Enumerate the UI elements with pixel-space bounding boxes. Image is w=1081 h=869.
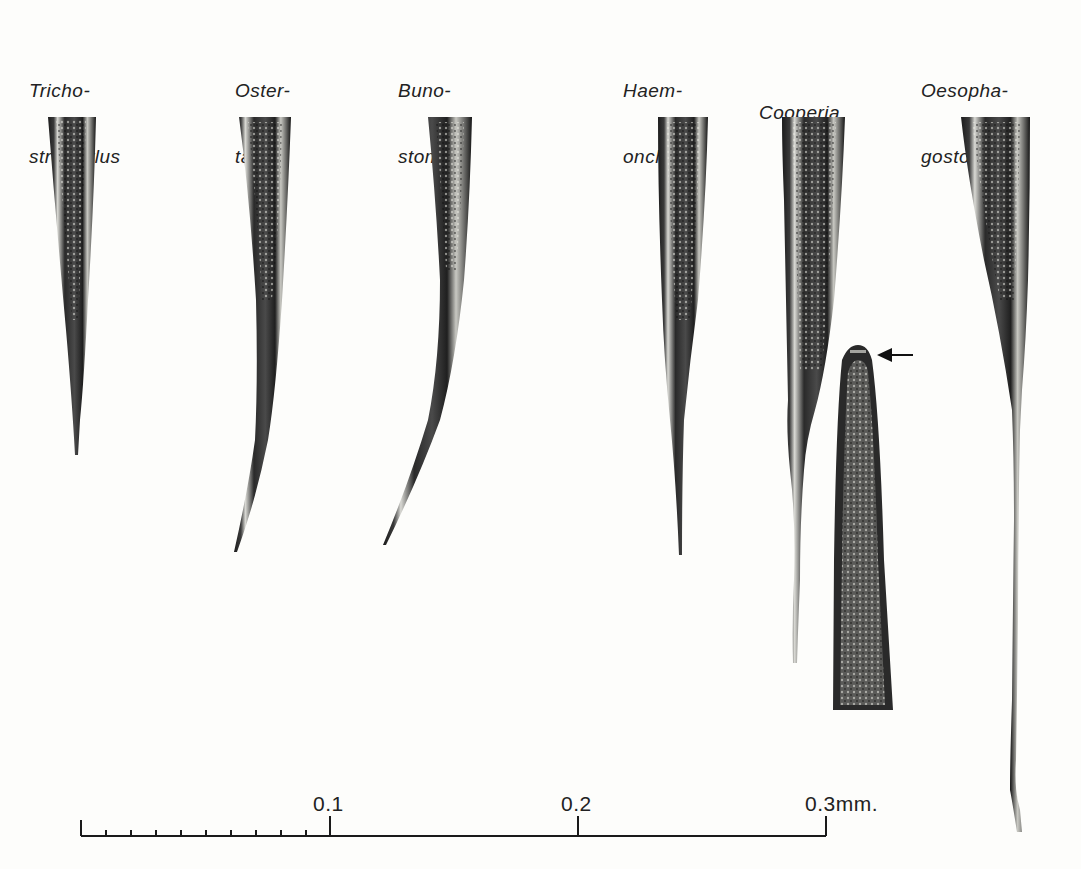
specimen-trichostrongylus	[48, 117, 96, 455]
scale-label-0-1: 0.1	[313, 792, 344, 816]
inset-cooperia-head	[833, 345, 893, 710]
specimen-ostertagia	[234, 117, 291, 552]
specimen-bunostomum	[383, 117, 472, 545]
specimen-oesophagostomum	[961, 117, 1030, 832]
scale-label-0-3-mm: 0.3mm.	[805, 792, 878, 816]
left-arrow-icon	[877, 348, 913, 362]
scale-label-0-2: 0.2	[561, 792, 592, 816]
specimen-haemonchus	[658, 117, 708, 555]
scale-bar	[81, 816, 826, 836]
specimen-plate	[0, 0, 1081, 869]
